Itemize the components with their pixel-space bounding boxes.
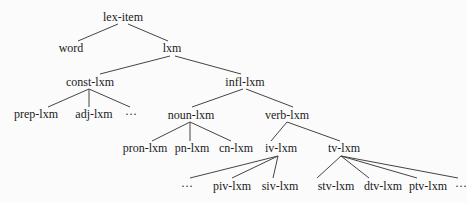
type-hierarchy-diagram: lex-itemwordlxmconst-lxminfl-lxmprep-lxm… [0,0,467,203]
edge-infl-lxm-to-verb-lxm [246,89,293,107]
node-word: word [59,42,84,54]
node-ptv-lxm: ptv-lxm [409,180,447,192]
node-piv-lxm: piv-lxm [213,180,251,192]
tree-edges [0,0,467,203]
edge-tv-lxm-to-dtv-lxm [341,156,369,178]
edge-lxm-to-infl-lxm [175,56,241,74]
node-stv-lxm: stv-lxm [318,180,355,192]
edge-tv-lxm-to-ptv-lxm [341,156,417,178]
edge-lex-item-to-lxm [128,24,168,41]
edge-lxm-to-const-lxm [100,56,170,74]
node-pn-lxm: pn-lxm [175,142,210,154]
node-noun-lxm: noun-lxm [168,109,215,121]
edge-verb-lxm-to-tv-lxm [287,122,340,141]
node-const-lxm: const-lxm [66,76,114,88]
node-dtv-lxm: dtv-lxm [364,180,402,192]
edge-iv-lxm-to-piv-lxm [232,156,278,178]
node-iv-more: ··· [181,180,193,192]
node-adj-lxm: adj-lxm [75,108,112,120]
node-infl-lxm: infl-lxm [225,76,264,88]
node-lxm: lxm [163,42,182,54]
edge-iv-lxm-to-siv-lxm [273,156,278,178]
node-pron-lxm: pron-lxm [123,142,168,154]
node-siv-lxm: siv-lxm [262,180,299,192]
edge-noun-lxm-to-cn-lxm [190,122,231,141]
edge-iv-lxm-to-iv-more [190,156,278,178]
edge-tv-lxm-to-stv-lxm [317,156,341,178]
edge-lex-item-to-word [78,24,118,41]
node-prep-lxm: prep-lxm [14,108,58,120]
edge-const-lxm-to-prep-lxm [48,89,89,107]
edge-infl-lxm-to-noun-lxm [192,89,243,107]
node-iv-lxm: iv-lxm [265,142,297,154]
node-const-more: ··· [125,108,137,120]
node-cn-lxm: cn-lxm [219,142,253,154]
node-verb-lxm: verb-lxm [265,109,309,121]
edge-noun-lxm-to-pron-lxm [152,122,190,141]
node-tv-more: ··· [455,180,467,192]
edge-const-lxm-to-const-more [89,89,130,107]
edge-verb-lxm-to-iv-lxm [271,122,287,141]
node-tv-lxm: tv-lxm [328,142,360,154]
edge-tv-lxm-to-tv-more [341,156,458,178]
node-lex-item: lex-item [103,11,143,23]
